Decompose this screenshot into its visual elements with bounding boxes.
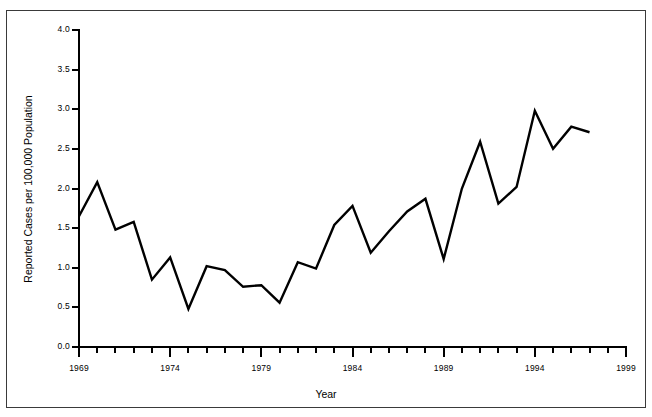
line-series-svg xyxy=(79,30,626,347)
y-axis-tick xyxy=(72,306,79,308)
x-axis-tick-label: 1989 xyxy=(421,364,467,373)
y-axis-tick xyxy=(72,69,79,71)
y-axis-title: Reported Cases per 100,000 Population xyxy=(22,79,34,299)
x-axis-tick-minor xyxy=(96,348,98,353)
plot-area xyxy=(79,30,626,347)
x-axis-tick-minor xyxy=(424,348,426,353)
x-axis-tick-minor xyxy=(206,348,208,353)
y-axis-tick-label: 0.5 xyxy=(26,302,70,311)
x-axis-tick-minor xyxy=(570,348,572,353)
x-axis-tick-minor xyxy=(589,348,591,353)
x-axis-tick-major xyxy=(352,348,354,357)
x-axis-tick-minor xyxy=(224,348,226,353)
x-axis-tick-major xyxy=(443,348,445,357)
x-axis-tick-minor xyxy=(151,348,153,353)
x-axis-tick-major xyxy=(78,348,80,357)
x-axis-tick-major xyxy=(625,348,627,357)
x-axis-tick-minor xyxy=(297,348,299,353)
y-axis-tick-label: 4.0 xyxy=(26,25,70,34)
chart-figure: 0.00.51.01.52.02.53.03.54.0 196919741979… xyxy=(0,0,652,417)
x-axis-tick-minor xyxy=(279,348,281,353)
x-axis-tick-minor xyxy=(461,348,463,353)
x-axis-tick-label: 1979 xyxy=(238,364,284,373)
x-axis-tick-minor xyxy=(607,348,609,353)
x-axis-tick-minor xyxy=(187,348,189,353)
x-axis-tick-label: 1974 xyxy=(147,364,193,373)
x-axis-tick-minor xyxy=(315,348,317,353)
x-axis-tick-minor xyxy=(242,348,244,353)
x-axis-tick-minor xyxy=(406,348,408,353)
x-axis-tick-minor xyxy=(133,348,135,353)
x-axis-tick-minor xyxy=(516,348,518,353)
x-axis-tick-major xyxy=(260,348,262,357)
x-axis-tick-minor xyxy=(479,348,481,353)
x-axis-tick-major xyxy=(534,348,536,357)
x-axis-tick-minor xyxy=(552,348,554,353)
y-axis-tick-label: 3.5 xyxy=(26,65,70,74)
x-axis-tick-label: 1984 xyxy=(330,364,376,373)
y-axis-tick xyxy=(72,148,79,150)
x-axis-title: Year xyxy=(0,388,652,400)
y-axis-tick xyxy=(72,227,79,229)
x-axis-tick-label: 1999 xyxy=(603,364,649,373)
y-axis-tick xyxy=(72,29,79,31)
y-axis-tick xyxy=(72,188,79,190)
x-axis-tick-minor xyxy=(370,348,372,353)
x-axis-tick-label: 1994 xyxy=(512,364,558,373)
y-axis-tick xyxy=(72,267,79,269)
x-axis-tick-minor xyxy=(333,348,335,353)
x-axis-tick-minor xyxy=(388,348,390,353)
data-line-series xyxy=(79,111,590,309)
y-axis-tick xyxy=(72,108,79,110)
x-axis-tick-minor xyxy=(497,348,499,353)
x-axis-tick-label: 1969 xyxy=(56,364,102,373)
x-axis-tick-major xyxy=(169,348,171,357)
x-axis-tick-minor xyxy=(114,348,116,353)
y-axis-tick-label: 0.0 xyxy=(26,342,70,351)
